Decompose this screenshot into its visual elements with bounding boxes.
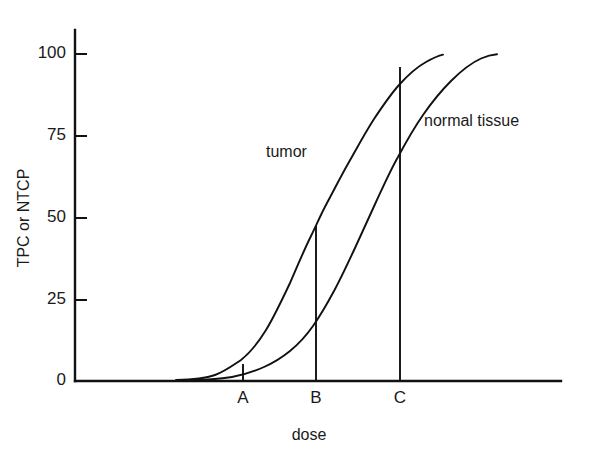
x-axis-title: dose xyxy=(292,426,327,443)
y-tick-label-75: 75 xyxy=(47,125,66,144)
x-tick-label-c: C xyxy=(394,388,406,407)
y-tick-label-25: 25 xyxy=(47,289,66,308)
y-tick-label-100: 100 xyxy=(38,43,66,62)
x-tick-label-b: B xyxy=(310,388,321,407)
tumor-curve-label: tumor xyxy=(266,143,308,160)
normal-tissue-curve xyxy=(184,54,497,380)
x-tick-label-a: A xyxy=(237,388,249,407)
normal-tissue-curve-label: normal tissue xyxy=(424,112,519,129)
y-axis-title: TPC or NTCP xyxy=(15,169,32,268)
y-tick-marks xyxy=(75,54,87,300)
chart-figure: 100 75 50 25 0 TPC or NTCP A B C dose tu… xyxy=(0,0,589,463)
y-tick-label-0: 0 xyxy=(57,370,66,389)
dose-response-chart: 100 75 50 25 0 TPC or NTCP A B C dose tu… xyxy=(0,0,589,463)
y-tick-label-50: 50 xyxy=(47,207,66,226)
